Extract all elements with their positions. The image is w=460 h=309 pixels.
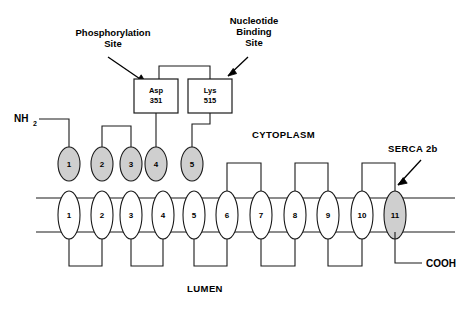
cytoplasmic-helix-3: 3 [120, 147, 142, 181]
transmembrane-helix-8: 8 [284, 191, 306, 239]
cytoplasmic-helix-1: 1 [58, 147, 80, 181]
transmembrane-helix-2: 2 [91, 191, 113, 239]
transmembrane-helix-11-label: 11 [391, 211, 400, 220]
transmembrane-helix-10: 10 [351, 191, 373, 239]
transmembrane-helix-1: 1 [58, 191, 80, 239]
transmembrane-helix-9-label: 9 [326, 211, 331, 220]
asp-351-number: 351 [150, 96, 163, 105]
lys-515-number: 515 [204, 96, 217, 105]
transmembrane-helix-1-label: 1 [67, 211, 72, 220]
domain-box-asp-351: Asp 351 [134, 79, 178, 113]
cytoplasmic-helix-4-label: 4 [154, 160, 159, 169]
domain-box-lys-515: Lys 515 [188, 79, 232, 113]
transmembrane-helix-3-label: 3 [129, 211, 134, 220]
nucleotide-binding-site-label-line3: Site [245, 37, 262, 48]
transmembrane-helix-6-label: 6 [225, 211, 230, 220]
c-terminus-label: COOH [426, 258, 456, 269]
transmembrane-helix-6: 6 [216, 191, 238, 239]
transmembrane-helix-3: 3 [120, 191, 142, 239]
cytoplasm-label: CYTOPLASM [252, 129, 315, 140]
transmembrane-helix-2-label: 2 [100, 211, 105, 220]
nucleotide-binding-site-label-line1: Nucleotide [230, 15, 279, 26]
cytoplasmic-helix-2-label: 2 [100, 160, 105, 169]
lys-515-residue: Lys [204, 86, 217, 95]
transmembrane-helix-5-label: 5 [192, 211, 197, 220]
cytoplasmic-helix-4: 4 [145, 147, 167, 181]
cytoplasmic-helix-1-label: 1 [67, 160, 72, 169]
transmembrane-helix-10-label: 10 [358, 211, 367, 220]
n-terminus-label: NH [14, 113, 28, 124]
cytoplasmic-helix-3-label: 3 [129, 160, 134, 169]
lumen-label: LUMEN [187, 283, 223, 294]
transmembrane-helix-7-label: 7 [259, 211, 264, 220]
transmembrane-helix-5: 5 [183, 191, 205, 239]
transmembrane-helix-4: 4 [152, 191, 174, 239]
serca-2b-label: SERCA 2b [388, 143, 438, 154]
cytoplasmic-helix-5-label: 5 [190, 160, 195, 169]
transmembrane-helix-7: 7 [250, 191, 272, 239]
transmembrane-helix-4-label: 4 [161, 211, 166, 220]
cytoplasmic-helix-5: 5 [181, 147, 203, 181]
n-terminus-subscript: 2 [33, 120, 37, 127]
transmembrane-helix-group: 1 2 3 4 5 6 7 8 [58, 191, 406, 239]
cytoplasmic-helix-2: 2 [91, 147, 113, 181]
transmembrane-helix-9: 9 [317, 191, 339, 239]
transmembrane-helix-11: 11 [384, 191, 406, 239]
phosphorylation-site-label-line1: Phosphorylation [76, 27, 151, 38]
phosphorylation-site-label-line2: Site [104, 38, 121, 49]
nucleotide-binding-site-label-line2: Binding [236, 26, 272, 37]
asp-351-residue: Asp [149, 86, 164, 95]
transmembrane-helix-8-label: 8 [293, 211, 298, 220]
serca-topology-diagram: Phosphorylation Site Nucleotide Binding … [0, 0, 460, 309]
